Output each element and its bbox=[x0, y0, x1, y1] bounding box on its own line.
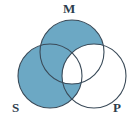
venn-label-m: M bbox=[63, 2, 76, 15]
venn-label-p: P bbox=[113, 101, 121, 114]
venn-label-s: S bbox=[12, 101, 20, 114]
venn-diagram: M S P bbox=[0, 0, 134, 123]
